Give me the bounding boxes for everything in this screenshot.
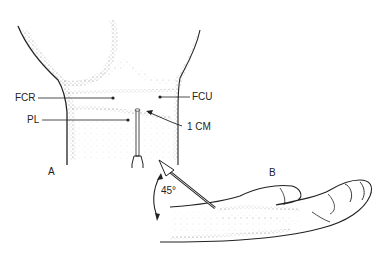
panel-b-label: B: [269, 168, 276, 178]
label-1cm: 1 CM: [187, 122, 211, 132]
label-fcr: FCR: [15, 93, 36, 103]
panel-a-wrist: [18, 20, 200, 168]
panel-b-hand: [154, 160, 372, 242]
wrist-injection-diagram: FCR FCU PL 1 CM A B 45°: [0, 0, 392, 254]
label-pl: PL: [27, 115, 39, 125]
panel-a-label: A: [48, 167, 55, 177]
label-fcu: FCU: [192, 92, 213, 102]
angle-label: 45°: [161, 186, 176, 196]
